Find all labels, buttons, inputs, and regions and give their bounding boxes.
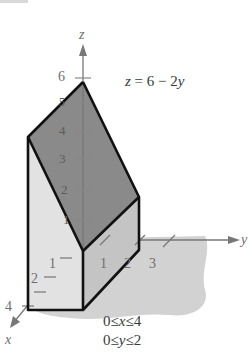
z-tick-1: 1 [63, 213, 70, 226]
equation-rhs: = 6 − 2 [131, 73, 178, 89]
y-tick-3: 3 [149, 257, 156, 271]
y-tick-2: 2 [124, 257, 131, 271]
x-tick-4: 4 [5, 300, 12, 314]
x-axis-label: x [5, 333, 11, 347]
z-tick-5: 5 [59, 96, 65, 108]
y-tick-1: 1 [100, 257, 107, 271]
x-axis-arrow-icon [10, 316, 20, 328]
solid-diagram [0, 0, 250, 354]
equation-rhs-var: y [178, 73, 185, 89]
x-tick-2: 2 [31, 272, 38, 286]
z-axis-arrow-icon [79, 44, 87, 56]
x-tick-1: 1 [49, 257, 56, 271]
z-axis-label: z [79, 28, 84, 42]
z-tick-3: 3 [59, 152, 66, 165]
y-axis-label: y [241, 233, 247, 247]
z-tick-4: 4 [59, 124, 66, 137]
z-tick-2: 2 [61, 183, 68, 196]
constraint-y: 0≤y≤2 [103, 333, 141, 348]
figure-canvas: z y x 6 5 4 3 2 1 1 2 3 1 2 4 z = 6 − 2y… [0, 0, 250, 354]
surface-equation: z = 6 − 2y [125, 74, 184, 89]
constraint-x: 0≤x≤4 [103, 314, 141, 329]
z-tick-6: 6 [58, 70, 65, 84]
y-axis-arrow-icon [228, 236, 240, 244]
